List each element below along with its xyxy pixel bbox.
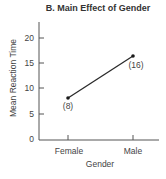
data-point-male xyxy=(131,54,135,58)
x-axis-label: Gender xyxy=(70,159,130,169)
y-tick-label: 10 xyxy=(20,83,34,93)
x-category-male: Male xyxy=(113,146,153,156)
data-point-female xyxy=(66,96,70,100)
y-tick-label: 20 xyxy=(20,33,34,43)
y-axis-label: Mean Reaction Time xyxy=(8,33,18,123)
y-tick-label: 5 xyxy=(20,109,34,119)
x-category-female: Female xyxy=(49,146,89,156)
y-tick-label: 0 xyxy=(20,134,34,144)
data-label-male: (16) xyxy=(124,60,148,70)
y-tick-label: 15 xyxy=(20,58,34,68)
data-label-female: (8) xyxy=(56,101,80,111)
